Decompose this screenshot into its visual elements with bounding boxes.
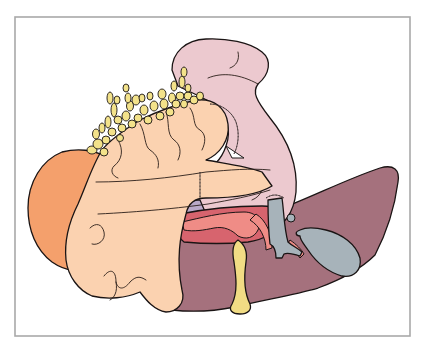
anatomical-illustration [0, 0, 426, 352]
gray-duct-node [287, 214, 295, 222]
